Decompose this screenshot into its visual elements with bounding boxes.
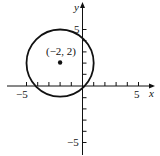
y-axis-label: y [73,1,79,13]
x-tick-label-neg5: −5 [16,88,28,100]
y-axis-arrow-icon [80,2,85,8]
coordinate-plane: (−2, 2) y x −5 5 5 −5 [0,0,160,156]
x-axis [7,82,155,89]
y-axis [80,2,87,155]
x-axis-label: x [148,87,154,99]
center-point [58,60,62,64]
x-tick-label-pos5: 5 [134,88,140,100]
y-tick-label-neg5: −5 [67,136,79,148]
center-label: (−2, 2) [46,45,76,58]
y-tick-label-pos5: 5 [74,23,80,35]
